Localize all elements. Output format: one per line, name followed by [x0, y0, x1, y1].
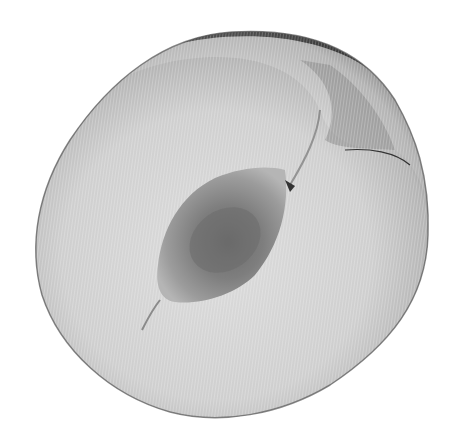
photo-stage: halved stone fruit, cut face with pit ca… — [0, 0, 458, 443]
fruit-half-image — [0, 0, 458, 443]
